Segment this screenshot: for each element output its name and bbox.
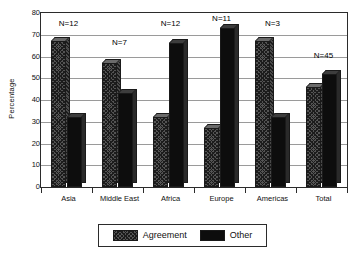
n-annotation: N=45 bbox=[314, 52, 333, 60]
bar-other-africa bbox=[169, 43, 184, 187]
bar-front-face bbox=[271, 117, 286, 187]
legend-entry-agreement: Agreement bbox=[113, 230, 187, 241]
bar-other-middle-east bbox=[118, 93, 133, 187]
bar-agreement-total bbox=[306, 87, 321, 187]
n-annotation: N=12 bbox=[59, 20, 78, 28]
bar-agreement-europe bbox=[204, 128, 219, 187]
bar-other-asia bbox=[67, 117, 82, 187]
x-tick-mark bbox=[245, 188, 246, 193]
x-tick-label-africa: Africa bbox=[161, 194, 180, 203]
bar-agreement-asia bbox=[51, 41, 66, 187]
n-annotation: N=11 bbox=[212, 15, 231, 23]
y-tick-label: 50 bbox=[6, 75, 40, 83]
x-tick-mark bbox=[41, 188, 42, 193]
x-tick-mark bbox=[194, 188, 195, 193]
bars-layer: N=12N=7N=12N=11N=3N=45 bbox=[41, 13, 347, 187]
bar-front-face bbox=[220, 28, 235, 187]
legend-label-other: Other bbox=[230, 231, 253, 240]
x-axis: AsiaMiddle EastAfricaEuropeAmericasTotal bbox=[40, 188, 348, 210]
bar-other-americas bbox=[271, 117, 286, 187]
bar-front-face bbox=[51, 41, 66, 187]
y-tick-label: 80 bbox=[6, 9, 40, 17]
bar-other-total bbox=[322, 74, 337, 187]
bar-side-face bbox=[235, 24, 239, 183]
bar-other-europe bbox=[220, 28, 235, 187]
bar-side-face bbox=[82, 113, 86, 183]
y-tick-label: 0 bbox=[6, 183, 40, 191]
legend-entry-other: Other bbox=[200, 230, 253, 241]
n-annotation: N=12 bbox=[161, 20, 180, 28]
y-tick-label: 60 bbox=[6, 53, 40, 61]
y-tick-label: 10 bbox=[6, 162, 40, 170]
legend-swatch-agreement bbox=[113, 230, 138, 241]
legend-label-agreement: Agreement bbox=[143, 231, 187, 240]
bar-chart: Percentage 01020304050607080 N=12N=7N=12… bbox=[0, 0, 364, 257]
bar-agreement-middle-east bbox=[102, 63, 117, 187]
x-tick-mark bbox=[143, 188, 144, 193]
bar-front-face bbox=[118, 93, 133, 187]
y-tick-label: 30 bbox=[6, 118, 40, 126]
bar-front-face bbox=[255, 41, 270, 187]
bar-front-face bbox=[322, 74, 337, 187]
legend-swatch-other bbox=[200, 230, 225, 241]
bar-side-face bbox=[184, 39, 188, 183]
y-axis: 01020304050607080 bbox=[0, 12, 40, 188]
n-annotation: N=7 bbox=[112, 39, 127, 47]
bar-front-face bbox=[102, 63, 117, 187]
bar-front-face bbox=[67, 117, 82, 187]
x-tick-label-middle-east: Middle East bbox=[100, 194, 139, 203]
y-tick-label: 20 bbox=[6, 140, 40, 148]
bar-front-face bbox=[153, 117, 168, 187]
bar-front-face bbox=[169, 43, 184, 187]
bar-front-face bbox=[306, 87, 321, 187]
bar-agreement-americas bbox=[255, 41, 270, 187]
bar-agreement-africa bbox=[153, 117, 168, 187]
y-tick-label: 40 bbox=[6, 96, 40, 104]
n-annotation: N=3 bbox=[265, 20, 280, 28]
x-tick-label-total: Total bbox=[316, 194, 332, 203]
chart-legend: AgreementOther bbox=[98, 224, 267, 247]
x-tick-label-asia: Asia bbox=[61, 194, 76, 203]
bar-side-face bbox=[337, 70, 341, 183]
bar-side-face bbox=[133, 89, 137, 183]
y-tick-label: 70 bbox=[6, 31, 40, 39]
x-tick-label-americas: Americas bbox=[257, 194, 288, 203]
bar-side-face bbox=[286, 113, 290, 183]
x-tick-mark bbox=[92, 188, 93, 193]
x-tick-mark bbox=[347, 188, 348, 193]
x-tick-mark bbox=[296, 188, 297, 193]
x-tick-label-europe: Europe bbox=[209, 194, 233, 203]
bar-front-face bbox=[204, 128, 219, 187]
